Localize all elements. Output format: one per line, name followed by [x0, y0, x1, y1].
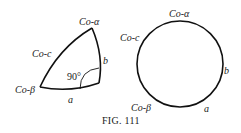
label-triangle-co-beta: Co-β: [15, 84, 35, 95]
label-circle-co-alpha: Co-α: [169, 8, 190, 19]
label-circle-a: a: [204, 103, 209, 114]
label-triangle-a: a: [68, 94, 73, 105]
side-b: [92, 28, 100, 83]
label-triangle-co-c: Co-c: [32, 48, 52, 59]
label-circle-co-c: Co-c: [120, 32, 140, 43]
napier-diagram: Co-α Co-c Co-β b a 90° Co-α Co-c b Co-β …: [0, 0, 241, 133]
label-triangle-b: b: [103, 55, 108, 66]
label-triangle-co-alpha: Co-α: [79, 16, 100, 27]
side-a: [40, 83, 99, 89]
figure-caption: FIG. 111: [102, 115, 140, 126]
label-right-angle: 90°: [67, 71, 81, 82]
label-circle-co-beta: Co-β: [131, 102, 151, 113]
label-circle-b: b: [224, 65, 229, 76]
napier-circle: [137, 21, 223, 107]
